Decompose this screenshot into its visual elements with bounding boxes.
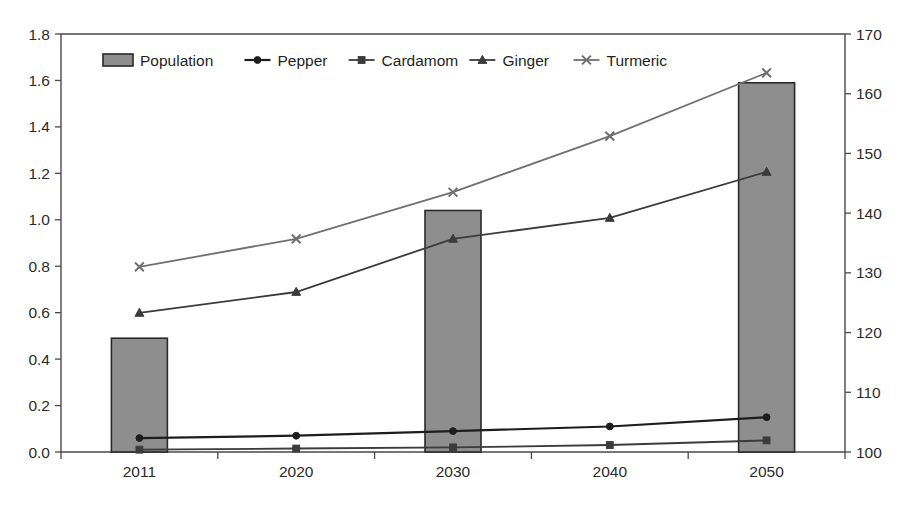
legend-label: Pepper xyxy=(278,52,328,69)
bar-2050 xyxy=(739,83,795,452)
right-tick-label: 110 xyxy=(856,384,881,401)
marker-square xyxy=(606,442,613,449)
marker-square xyxy=(293,445,300,452)
marker-circle xyxy=(254,57,261,64)
right-tick-label: 160 xyxy=(856,85,882,102)
x-axis-ticks: 20112020203020402050 xyxy=(61,452,845,480)
legend-item-turmeric[interactable]: Turmeric xyxy=(574,52,668,69)
x-tick-label: 2050 xyxy=(749,463,784,480)
legend-item-ginger[interactable]: Ginger xyxy=(469,52,549,69)
left-tick-label: 1.4 xyxy=(28,118,50,135)
right-axis-ticks: 100110120130140150160170 xyxy=(845,26,882,461)
x-tick-label: 2040 xyxy=(593,463,628,480)
left-tick-label: 0.0 xyxy=(28,444,50,461)
right-tick-label: 130 xyxy=(856,264,882,281)
bar-series-population xyxy=(111,83,794,452)
marker-circle xyxy=(293,432,300,439)
marker-cross xyxy=(762,68,771,77)
marker-square xyxy=(763,437,770,444)
chart-container: 0.00.20.40.60.81.01.21.41.61.8 100110120… xyxy=(0,0,903,506)
x-tick-label: 2011 xyxy=(123,463,156,480)
legend-label: Turmeric xyxy=(607,52,668,69)
left-tick-label: 1.2 xyxy=(28,165,50,182)
marker-square xyxy=(136,446,143,453)
marker-circle xyxy=(136,435,143,442)
marker-cross xyxy=(605,132,614,141)
right-tick-label: 120 xyxy=(856,324,882,341)
legend-label: Ginger xyxy=(502,52,549,69)
marker-circle xyxy=(606,423,613,430)
legend-item-cardamom[interactable]: Cardamom xyxy=(349,52,459,69)
right-tick-label: 100 xyxy=(856,444,882,461)
left-tick-label: 1.8 xyxy=(28,26,50,43)
legend-swatch-bar xyxy=(103,54,133,66)
chart-canvas: 0.00.20.40.60.81.01.21.41.61.8 100110120… xyxy=(0,0,903,506)
marker-square xyxy=(358,57,365,64)
legend-label: Population xyxy=(140,52,213,69)
right-tick-label: 140 xyxy=(856,205,882,222)
x-tick-label: 2020 xyxy=(279,463,314,480)
marker-square xyxy=(450,444,457,451)
chart-legend: PopulationPepperCardamomGingerTurmeric xyxy=(103,52,667,69)
left-axis-ticks: 0.00.20.40.60.81.01.21.41.61.8 xyxy=(28,26,61,461)
legend-item-population[interactable]: Population xyxy=(103,52,213,69)
marker-circle xyxy=(450,428,457,435)
legend-label: Cardamom xyxy=(382,52,459,69)
left-tick-label: 0.4 xyxy=(28,351,50,368)
right-tick-label: 170 xyxy=(856,26,882,43)
bar-2030 xyxy=(425,210,481,452)
left-tick-label: 0.6 xyxy=(28,304,50,321)
left-tick-label: 0.2 xyxy=(28,397,50,414)
marker-circle xyxy=(763,414,770,421)
left-tick-label: 1.6 xyxy=(28,72,50,89)
legend-item-pepper[interactable]: Pepper xyxy=(245,52,328,69)
left-tick-label: 0.8 xyxy=(28,258,50,275)
x-tick-label: 2030 xyxy=(436,463,471,480)
left-tick-label: 1.0 xyxy=(28,211,50,228)
right-tick-label: 150 xyxy=(856,145,882,162)
